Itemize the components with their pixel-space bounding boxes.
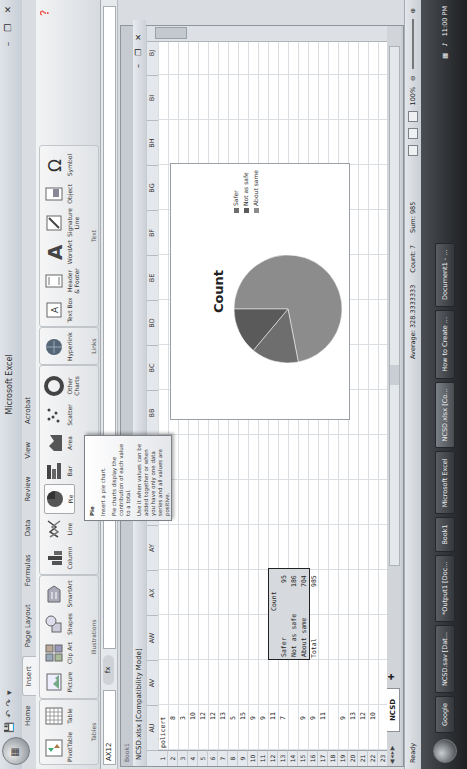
row-header[interactable]: 12 — [268, 750, 278, 766]
row-header[interactable]: 18 — [328, 750, 338, 766]
cell-au20[interactable]: 13 — [348, 712, 358, 720]
column-header[interactable]: BE — [147, 255, 158, 300]
taskbar-item-ncsd-sav[interactable]: NCSD.sav [Dat... — [435, 625, 455, 693]
column-header[interactable]: BD — [147, 300, 158, 345]
header-footer-button[interactable]: Header & Footer — [44, 267, 80, 295]
picture-button[interactable]: Picture — [44, 668, 73, 696]
cell-au9[interactable]: 15 — [238, 712, 248, 720]
tray-network-icon[interactable]: ▦ — [435, 52, 455, 58]
cell-area[interactable]: policert 8 3 10 12 12 13 5 15 9 9 11 7 9… — [158, 41, 387, 750]
cell-au12[interactable]: 11 — [268, 712, 278, 720]
cell-au6[interactable]: 12 — [208, 712, 218, 720]
tab-home[interactable]: Home — [22, 696, 36, 735]
shapes-button[interactable]: Shapes — [44, 610, 73, 638]
clipart-button[interactable]: Clip Art — [44, 639, 73, 667]
column-header[interactable]: BI — [147, 75, 158, 120]
clock[interactable]: 11:00 PM — [435, 6, 455, 36]
page-break-view-button[interactable] — [408, 112, 418, 123]
row-header[interactable]: 14 — [288, 750, 298, 766]
sheet-nav-buttons[interactable]: ◀◂▸▶ — [388, 745, 395, 764]
normal-view-button[interactable] — [408, 146, 418, 157]
bar-chart-button[interactable]: Bar — [44, 457, 73, 485]
tab-insert[interactable]: Insert — [22, 656, 36, 696]
tab-formulas[interactable]: Formulas — [22, 545, 36, 595]
table-row-value[interactable]: 95 — [279, 575, 289, 583]
workbook-restore-icon[interactable]: ❐ — [134, 49, 143, 56]
zoom-slider[interactable] — [412, 19, 414, 69]
taskbar-item-microsoft-excel[interactable]: Microsoft Excel — [435, 451, 455, 514]
cell-au16[interactable]: 9 — [308, 716, 318, 720]
row-header[interactable]: 10 — [248, 750, 258, 766]
column-header[interactable]: BG — [147, 165, 158, 210]
pie-plot[interactable] — [233, 254, 343, 364]
tab-view[interactable]: View — [22, 433, 36, 468]
tab-review[interactable]: Review — [22, 468, 36, 511]
taskbar-item-book1[interactable]: Book1 — [435, 517, 455, 551]
table-row-label[interactable]: Not as safe — [289, 614, 299, 657]
sheet-tab-ncsd[interactable]: NCSD — [387, 688, 400, 732]
name-box[interactable]: AX12 — [103, 690, 116, 765]
hyperlink-button[interactable]: Hyperlink — [44, 333, 73, 361]
column-header[interactable]: AU — [147, 705, 158, 750]
row-header[interactable]: 8 — [228, 750, 238, 766]
line-chart-button[interactable]: Line — [44, 515, 73, 543]
table-header-count[interactable]: Count — [269, 591, 279, 611]
close-icon[interactable]: ✕ — [3, 6, 13, 14]
smartart-button[interactable]: SmartArt — [44, 580, 73, 608]
row-header[interactable]: 7 — [218, 750, 228, 766]
row-header[interactable]: 22 — [368, 750, 378, 766]
cell-au5[interactable]: 12 — [198, 712, 208, 720]
object-button[interactable]: Object — [44, 180, 73, 208]
row-header[interactable]: 5 — [198, 750, 208, 766]
zoom-level[interactable]: 100% — [405, 87, 421, 106]
column-header[interactable]: BC — [147, 345, 158, 390]
column-header[interactable]: AV — [147, 660, 158, 705]
tray-volume-icon[interactable]: ♪ — [435, 42, 455, 46]
wordart-button[interactable]: A WordArt — [44, 238, 73, 266]
cell-au22[interactable]: 10 — [368, 712, 378, 720]
start-button[interactable] — [433, 739, 457, 763]
row-header[interactable]: 1 — [158, 750, 168, 766]
column-header[interactable]: BF — [147, 210, 158, 255]
workbook-close-icon[interactable]: ✕ — [134, 34, 143, 41]
select-all-corner[interactable] — [147, 750, 158, 766]
table-row-value[interactable]: 186 — [289, 575, 299, 587]
row-header[interactable]: 15 — [298, 750, 308, 766]
row-header[interactable]: 17 — [318, 750, 328, 766]
column-header[interactable]: BJ — [147, 41, 158, 75]
restore-icon[interactable]: ❐ — [3, 24, 13, 32]
office-button[interactable]: ▦ — [2, 737, 30, 765]
cell-au21[interactable]: 12 — [358, 712, 368, 720]
row-header[interactable]: 2 — [168, 750, 178, 766]
column-header[interactable]: AY — [147, 525, 158, 570]
row-header[interactable]: 6 — [208, 750, 218, 766]
total-value[interactable]: 985 — [309, 575, 319, 587]
row-header[interactable]: 3 — [178, 750, 188, 766]
tab-acrobat[interactable]: Acrobat — [22, 388, 36, 433]
row-header[interactable]: 9 — [238, 750, 248, 766]
cell-au8[interactable]: 5 — [228, 716, 238, 720]
row-header[interactable]: 13 — [278, 750, 288, 766]
formula-input[interactable] — [103, 6, 116, 649]
textbox-button[interactable]: A Text Box — [44, 296, 73, 324]
horizontal-scroll-thumb[interactable] — [390, 365, 399, 385]
page-layout-view-button[interactable] — [408, 129, 418, 140]
cell-au4[interactable]: 10 — [188, 712, 198, 720]
signature-line-button[interactable]: Signature Line — [44, 209, 80, 237]
row-header[interactable]: 11 — [258, 750, 268, 766]
vertical-scrollbar[interactable] — [147, 26, 387, 42]
table-row-label[interactable]: Safer — [279, 637, 289, 657]
tab-page-layout[interactable]: Page Layout — [22, 595, 36, 656]
cell-au15[interactable]: 9 — [298, 716, 308, 720]
cell-au1[interactable]: policert — [158, 717, 168, 748]
spreadsheet-grid[interactable]: AU AV AW AX AY AZ BA BB BC BD BE BF BG B… — [147, 41, 387, 766]
pivottable-button[interactable]: PivotTable — [44, 734, 73, 762]
cell-au7[interactable]: 13 — [218, 712, 228, 720]
taskbar-item-ncsd-xlsx[interactable]: NCSD.xlsx [Co... — [435, 382, 455, 449]
workbook-minimize-icon[interactable]: – — [134, 64, 143, 68]
column-chart-button[interactable]: Column — [44, 544, 73, 572]
column-header[interactable]: AW — [147, 615, 158, 660]
total-label[interactable]: Total — [309, 638, 319, 658]
vertical-scroll-thumb[interactable] — [155, 27, 187, 39]
taskbar-item-how-to-create[interactable]: How to Create ... — [435, 310, 455, 379]
